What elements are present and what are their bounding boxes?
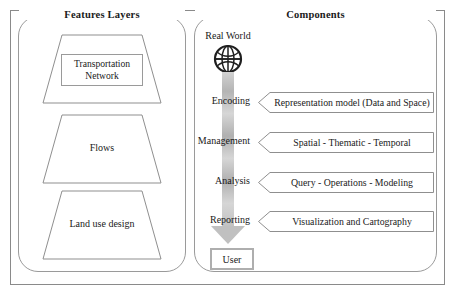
banner-analysis: Query - Operations - Modeling — [258, 172, 434, 193]
stage-label-analysis: Analysis — [188, 175, 250, 186]
user-label: User — [223, 254, 242, 265]
diagram-canvas: Features Layers Transportation Network F… — [0, 0, 458, 300]
layer-trapezoid-land-use: Land use design — [42, 190, 162, 260]
stage-label-encoding: Encoding — [188, 95, 250, 106]
banner-text-management: Spatial - Thematic - Temporal — [258, 132, 434, 153]
layer-label-transportation: Transportation Network — [62, 58, 142, 82]
stage-label-management: Management — [188, 135, 250, 146]
panel-features-title: Features Layers — [19, 9, 185, 20]
banner-management: Spatial - Thematic - Temporal — [258, 132, 434, 153]
process-flow-arrowhead — [211, 226, 245, 244]
user-box: User — [210, 248, 254, 270]
banner-text-encoding: Representation model (Data and Space) — [258, 92, 434, 113]
real-world-label: Real World — [198, 30, 258, 41]
layer-label-flows: Flows — [42, 142, 162, 155]
layer-trapezoid-flows: Flows — [42, 114, 162, 184]
stage-label-reporting: Reporting — [188, 214, 250, 225]
globe-icon — [212, 43, 244, 75]
banner-encoding: Representation model (Data and Space) — [258, 92, 434, 113]
layer-trapezoid-transportation: Transportation Network — [42, 34, 162, 104]
banner-reporting: Visualization and Cartography — [258, 211, 434, 232]
panel-components-title: Components — [195, 9, 436, 20]
banner-text-analysis: Query - Operations - Modeling — [258, 172, 434, 193]
layer-label-land-use: Land use design — [42, 218, 162, 231]
banner-text-reporting: Visualization and Cartography — [258, 211, 434, 232]
layer-label-box-transportation: Transportation Network — [61, 54, 143, 86]
